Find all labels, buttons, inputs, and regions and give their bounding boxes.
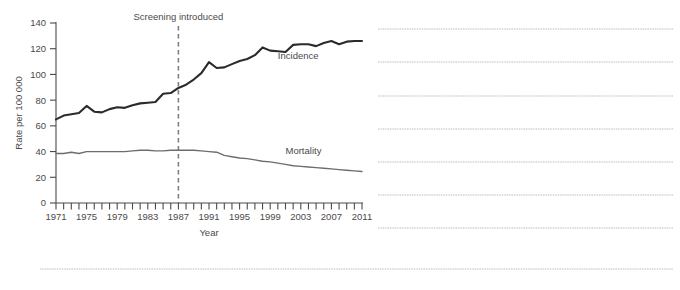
y-tick-label: 20 <box>35 172 46 183</box>
redacted-text-lines <box>40 29 673 269</box>
y-tick-label: 100 <box>30 69 46 80</box>
screening-introduced-label: Screening introduced <box>134 11 224 22</box>
incidence-series-label: Incidence <box>278 50 319 61</box>
y-tick-label: 120 <box>30 43 46 54</box>
x-tick-label: 1995 <box>229 211 250 222</box>
x-tick-label: 1999 <box>260 211 281 222</box>
x-axis-tick-labels: 1971197519791983198719911995199920032007… <box>45 211 372 222</box>
figure-container: 020406080100120140 197119751979198319871… <box>0 0 680 290</box>
x-tick-label: 2003 <box>290 211 311 222</box>
x-axis-title: Year <box>199 227 218 238</box>
x-tick-label: 1991 <box>198 211 219 222</box>
y-tick-label: 140 <box>30 17 46 28</box>
x-tick-label: 2007 <box>321 211 342 222</box>
x-tick-label: 1975 <box>76 211 97 222</box>
y-axis-ticks <box>50 23 56 203</box>
screening-introduced-annotation: Screening introduced <box>134 11 224 203</box>
y-axis-tick-labels: 020406080100120140 <box>30 17 46 208</box>
mortality-series-label: Mortality <box>286 145 322 156</box>
x-tick-label: 1979 <box>107 211 128 222</box>
x-axis-ticks <box>56 203 362 210</box>
x-tick-label: 1987 <box>168 211 189 222</box>
y-axis-title: Rate per 100 000 <box>13 76 24 149</box>
x-tick-label: 2011 <box>352 211 372 222</box>
x-tick-label: 1983 <box>137 211 158 222</box>
x-tick-label: 1971 <box>45 211 66 222</box>
y-tick-label: 80 <box>35 95 46 106</box>
cancer-rates-line-chart: 020406080100120140 197119751979198319871… <box>0 0 680 290</box>
y-tick-label: 60 <box>35 120 46 131</box>
y-tick-label: 0 <box>41 197 46 208</box>
y-tick-label: 40 <box>35 146 46 157</box>
